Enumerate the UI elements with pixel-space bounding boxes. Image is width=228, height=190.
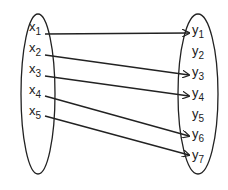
set-y-element-y5: y5 bbox=[192, 106, 205, 124]
mapping-arrows bbox=[45, 33, 189, 155]
arrow-x2-to-y3 bbox=[45, 55, 189, 75]
set-y-labels: y1y2y3y4y5y6y7 bbox=[192, 22, 205, 165]
set-y-element-y4: y4 bbox=[192, 85, 205, 103]
set-x-element-x4: x4 bbox=[29, 82, 42, 100]
set-y-element-y3: y3 bbox=[192, 64, 205, 82]
set-y-element-y7: y7 bbox=[192, 147, 205, 165]
set-y-element-y6: y6 bbox=[192, 126, 205, 144]
set-x-labels: x1x2x3x4x5 bbox=[29, 19, 42, 121]
arrow-x3-to-y4 bbox=[45, 76, 189, 96]
mapping-diagram: x1x2x3x4x5 y1y2y3y4y5y6y7 bbox=[0, 0, 228, 190]
arrow-x5-to-y7 bbox=[45, 116, 189, 155]
set-y-element-y1: y1 bbox=[192, 22, 205, 40]
set-x-element-x2: x2 bbox=[29, 40, 42, 58]
set-x-element-x1: x1 bbox=[29, 19, 42, 37]
arrow-x1-to-y1 bbox=[45, 33, 189, 34]
arrow-x4-to-y6 bbox=[45, 96, 189, 136]
set-y-element-y2: y2 bbox=[192, 43, 205, 61]
set-x-element-x5: x5 bbox=[29, 103, 42, 121]
set-x-element-x3: x3 bbox=[29, 61, 42, 79]
